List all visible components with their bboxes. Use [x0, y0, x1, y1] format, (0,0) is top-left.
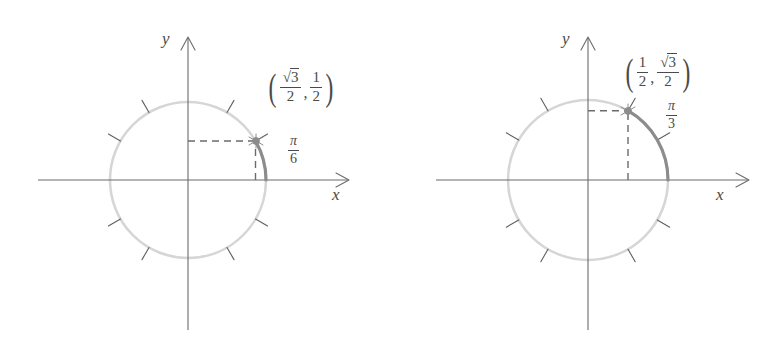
panel-pi-over-6	[0, 0, 384, 345]
angle-denominator-right: 3	[666, 116, 677, 132]
unit-circle-figure: y x ( √3 2 , 1 2 ) π 6	[0, 0, 768, 345]
y-coordinate-fraction: √3 2	[656, 55, 680, 89]
x-axis-label-right: x	[716, 186, 724, 203]
coordinate-label-left: ( √3 2 , 1 2 )	[266, 70, 336, 104]
square-root-icon: √3	[659, 55, 677, 71]
y-coordinate-denominator: 2	[662, 73, 674, 90]
coordinate-comma: ,	[302, 85, 309, 104]
highlighted-arc	[628, 111, 668, 180]
angle-denominator-left: 6	[288, 151, 299, 167]
angle-label-left: π 6	[287, 134, 300, 166]
left-paren-icon: (	[268, 72, 276, 103]
x-coordinate-denominator: 2	[285, 88, 297, 105]
x-coordinate-fraction: 1 2	[636, 55, 650, 89]
x-coordinate-numerator: 1	[637, 55, 649, 73]
left-paren-icon: (	[625, 57, 633, 88]
x-axis-label-left: x	[332, 186, 340, 203]
terminal-point-marker	[621, 104, 635, 118]
coordinate-label-right: ( 1 2 , √3 2 )	[623, 55, 693, 89]
highlighted-arc	[256, 141, 267, 180]
angle-numerator-right: π	[666, 99, 677, 116]
y-coordinate-fraction: 1 2	[309, 70, 323, 104]
square-root-icon: √3	[282, 70, 300, 86]
coordinate-comma: ,	[649, 70, 656, 89]
right-paren-icon: )	[682, 57, 690, 88]
angle-numerator-left: π	[288, 134, 299, 151]
right-paren-icon: )	[325, 72, 333, 103]
x-coordinate-numerator: √3	[280, 70, 302, 88]
angle-label-right: π 3	[665, 99, 678, 131]
x-coordinate-fraction: √3 2	[279, 70, 303, 104]
angle-fraction-right: π 3	[665, 99, 678, 131]
x-coordinate-denominator: 2	[637, 73, 649, 90]
panel-pi-over-3	[384, 0, 768, 345]
y-coordinate-numerator: √3	[657, 55, 679, 73]
y-axis-label-right: y	[562, 30, 570, 47]
angle-fraction-left: π 6	[287, 134, 300, 166]
y-axis-label-left: y	[162, 30, 170, 47]
y-coordinate-denominator: 2	[310, 88, 322, 105]
y-coordinate-numerator: 1	[310, 70, 322, 88]
